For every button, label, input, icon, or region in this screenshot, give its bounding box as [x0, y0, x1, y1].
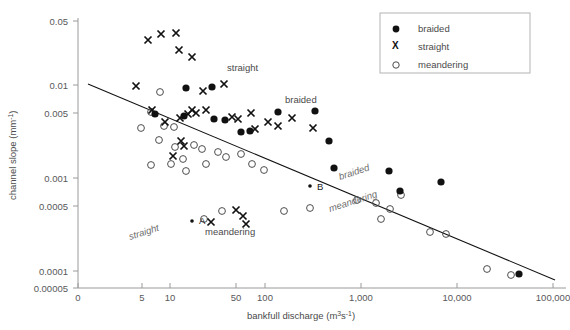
- data-point-straight: [193, 110, 200, 117]
- data-point-braided: [246, 127, 253, 134]
- data-point-straight: [162, 119, 169, 126]
- svg-text:channel slope (mm-1): channel slope (mm-1): [7, 111, 18, 200]
- y-tick-label: 0.0001: [39, 266, 68, 277]
- data-point-straight: [275, 123, 282, 130]
- y-axis-ticks: 0.050.010.0050.0010.00050.00010.00005: [34, 16, 78, 294]
- annotation-braided: braided: [285, 94, 317, 105]
- y-tick-label: 0.0005: [39, 201, 68, 212]
- data-point-straight: [176, 47, 183, 54]
- scatter-plot: 0.050.010.0050.0010.00050.00010.00005 05…: [0, 0, 570, 330]
- data-point-braided: [210, 115, 217, 122]
- data-point-braided: [180, 112, 187, 119]
- data-point-meandering: [148, 162, 155, 169]
- data-point-braided: [515, 270, 522, 277]
- data-point-meandering: [171, 124, 178, 131]
- data-point-straight: [189, 54, 196, 61]
- legend: X braided straight meandering: [380, 13, 530, 73]
- data-point-straight: [265, 119, 272, 126]
- data-point-meandering: [261, 167, 268, 174]
- data-point-meandering: [427, 229, 434, 236]
- data-point-meandering: [203, 161, 210, 168]
- labelled-point-dot: [308, 184, 312, 188]
- data-point-straight: [145, 37, 152, 44]
- labelled-points: AB: [190, 181, 323, 226]
- data-point-straight: [173, 30, 180, 37]
- y-tick-label: 0.001: [44, 173, 68, 184]
- x-tick-label: 10: [165, 292, 176, 303]
- data-point-braided: [182, 84, 189, 91]
- data-point-meandering: [219, 208, 226, 215]
- data-point-meandering: [378, 216, 385, 223]
- data-point-straight: [310, 125, 317, 132]
- series-straight: [133, 30, 317, 228]
- data-point-meandering: [191, 142, 198, 149]
- data-point-straight: [229, 114, 236, 121]
- annotation-straight: straight: [227, 62, 259, 73]
- x-axis-ticks: 0510501001,00010,000100,000: [75, 283, 570, 303]
- x-tick-label: 1,000: [349, 292, 373, 303]
- data-point-meandering: [484, 266, 491, 273]
- svg-text:bankfull discharge (m3s-1): bankfull discharge (m3s-1): [247, 310, 355, 321]
- legend-label-braided: braided: [418, 23, 450, 34]
- data-point-meandering: [281, 208, 288, 215]
- labelled-point-text-B: B: [317, 181, 323, 192]
- data-point-braided: [325, 137, 332, 144]
- data-point-meandering: [180, 156, 187, 163]
- data-point-meandering: [157, 89, 164, 96]
- data-point-meandering: [138, 125, 145, 132]
- annotation-meandering: meandering: [205, 226, 255, 237]
- data-point-braided: [396, 187, 403, 194]
- x-tick-label: 0: [75, 292, 80, 303]
- y-tick-label: 0.00005: [34, 283, 68, 294]
- data-point-meandering: [172, 144, 179, 151]
- x-axis-title: bankfull discharge (m3s-1): [247, 310, 355, 321]
- x-axis-title-main: bankfull discharge (m: [247, 310, 337, 321]
- y-tick-label: 0.05: [50, 16, 69, 27]
- y-axis-title-main: channel slope (mm: [7, 120, 18, 200]
- y-tick-label: 0.01: [50, 80, 69, 91]
- y-tick-label: 0.005: [44, 108, 68, 119]
- data-point-straight: [203, 107, 210, 114]
- data-point-meandering: [215, 149, 222, 156]
- data-point-braided: [237, 128, 244, 135]
- annotation-meandering: meandering: [327, 188, 379, 214]
- data-point-braided: [221, 116, 228, 123]
- legend-marker-braided-icon: [393, 26, 400, 33]
- series-braided: [151, 83, 522, 277]
- data-point-braided: [330, 164, 337, 171]
- data-point-meandering: [183, 168, 190, 175]
- data-point-meandering: [168, 161, 175, 168]
- legend-label-straight: straight: [418, 41, 450, 52]
- data-point-braided: [274, 108, 281, 115]
- data-point-straight: [200, 88, 207, 95]
- data-point-meandering: [199, 146, 206, 153]
- data-point-straight: [233, 207, 240, 214]
- data-point-straight: [133, 83, 140, 90]
- data-point-straight: [240, 213, 247, 220]
- data-point-meandering: [156, 137, 163, 144]
- data-point-straight: [235, 116, 242, 123]
- data-point-braided: [151, 110, 158, 117]
- y-axis-title-tail: ): [7, 111, 18, 114]
- data-point-meandering: [387, 206, 394, 213]
- data-point-meandering: [223, 154, 230, 161]
- x-tick-label: 100: [257, 292, 273, 303]
- data-point-braided: [385, 167, 392, 174]
- data-point-straight: [248, 110, 255, 117]
- legend-marker-straight-icon: X: [392, 40, 399, 51]
- data-point-straight: [158, 31, 165, 38]
- annotation-braided: braided: [337, 161, 371, 181]
- data-point-meandering: [249, 161, 256, 168]
- x-tick-label: 100,000: [536, 292, 570, 303]
- x-tick-label: 10,000: [442, 292, 471, 303]
- x-axis-title-tail: ): [352, 310, 355, 321]
- data-point-meandering: [238, 151, 245, 158]
- data-point-braided: [208, 83, 215, 90]
- data-point-straight: [170, 153, 177, 160]
- data-point-braided: [437, 178, 444, 185]
- data-point-straight: [208, 219, 215, 226]
- plot-annotations: straightbraidedbraidedmeanderingmeanderi…: [127, 62, 379, 242]
- chart-figure: 0.050.010.0050.0010.00050.00010.00005 05…: [0, 0, 570, 330]
- data-point-meandering: [508, 272, 515, 279]
- annotation-straight: straight: [127, 222, 160, 242]
